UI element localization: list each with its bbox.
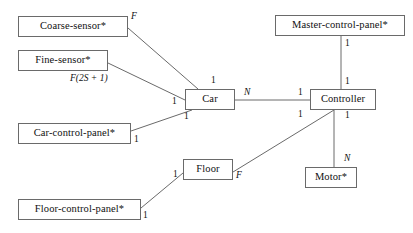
entity-box-controller[interactable]: Controller: [310, 89, 376, 110]
relationship-edge: [233, 110, 334, 172]
cardinality-label-card-floor-left: 1: [173, 170, 178, 180]
cardinality-label-card-motor-N: N: [344, 154, 350, 164]
entity-label: Floor: [196, 164, 219, 175]
entity-box-motor[interactable]: Motor*: [305, 167, 357, 188]
cardinality-label-card-car-left: 1: [172, 97, 177, 107]
entity-label: Car: [202, 94, 217, 105]
relationship-edge: [128, 28, 198, 89]
relationship-edge: [131, 110, 192, 131]
entity-label: Car-control-panel*: [34, 128, 115, 139]
entity-box-floor[interactable]: Floor: [183, 159, 233, 180]
cardinality-label-card-ctrl-bot-right: 1: [345, 111, 350, 121]
entity-label: Master-control-panel*: [292, 20, 388, 31]
entity-box-car-control-panel[interactable]: Car-control-panel*: [18, 123, 131, 144]
cardinality-label-card-ctrl-top: 1: [345, 77, 350, 87]
entity-label: Floor-control-panel*: [35, 204, 124, 215]
cardinality-label-card-fine-F2S1: F(2S + 1): [70, 74, 108, 84]
entity-box-coarse-sensor[interactable]: Coarse-sensor*: [18, 16, 128, 37]
cardinality-label-card-car-right-N: N: [244, 88, 250, 98]
entity-box-master-control-panel[interactable]: Master-control-panel*: [275, 15, 405, 36]
entity-label: Motor*: [315, 172, 347, 183]
entity-label: Fine-sensor*: [35, 55, 90, 66]
cardinality-label-card-ctrl-left-bot: 1: [298, 110, 303, 120]
entity-label: Controller: [321, 94, 365, 105]
cardinality-label-card-car-bottom: 1: [184, 112, 189, 122]
entity-label: Coarse-sensor*: [40, 21, 106, 32]
entity-box-car[interactable]: Car: [185, 89, 235, 110]
cardinality-label-card-fcp-right: 1: [143, 211, 148, 221]
cardinality-label-card-floor-right-F: F: [236, 171, 242, 181]
cardinality-label-card-ccp-right: 1: [134, 135, 139, 145]
er-diagram-canvas: Coarse-sensor*Fine-sensor*Car-control-pa…: [0, 0, 413, 233]
entity-box-floor-control-panel[interactable]: Floor-control-panel*: [18, 199, 141, 220]
relationship-edge: [108, 63, 185, 100]
entity-box-fine-sensor[interactable]: Fine-sensor*: [18, 50, 108, 71]
cardinality-label-card-car-top: 1: [211, 76, 216, 86]
cardinality-label-card-coarse-F: F: [131, 12, 137, 22]
cardinality-label-card-mcp-bottom: 1: [345, 39, 350, 49]
cardinality-label-card-ctrl-left-top: 1: [298, 88, 303, 98]
